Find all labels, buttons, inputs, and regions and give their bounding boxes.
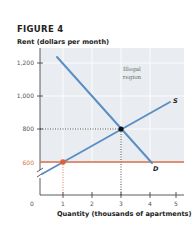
chart-plot: 1,200 1,000 800 600 0 1 2 3 4 5 Illegal … <box>0 0 196 233</box>
ceiling-supply-point <box>60 159 66 165</box>
demand-label: D <box>153 165 159 173</box>
x-tick-2: 2 <box>90 200 94 207</box>
y-tick-1000: 1,000 <box>17 92 34 99</box>
supply-label: S <box>173 97 178 105</box>
y-tick-800: 800 <box>23 125 35 132</box>
illegal-region-label-1: Illegal <box>123 66 141 73</box>
x-tick-5: 5 <box>174 200 178 207</box>
x-tick-1: 1 <box>61 200 65 207</box>
x-tick-3: 3 <box>119 200 123 207</box>
x-tick-0: 0 <box>30 200 34 207</box>
illegal-region-label-2: region <box>123 74 142 81</box>
y-tick-1200: 1,200 <box>17 59 34 66</box>
x-tick-4: 4 <box>148 200 152 207</box>
equilibrium-point <box>118 126 123 131</box>
y-tick-600: 600 <box>23 159 35 166</box>
